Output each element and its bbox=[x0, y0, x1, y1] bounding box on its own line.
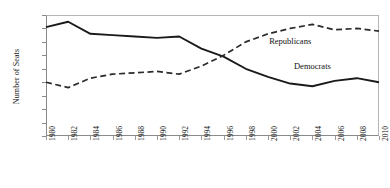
x-tick-label: 1998 bbox=[249, 126, 257, 141]
x-tick-label: 1982 bbox=[71, 126, 79, 141]
x-tick-mark bbox=[46, 136, 47, 140]
x-tick-label: 1992 bbox=[182, 126, 190, 141]
x-tick-label: 1988 bbox=[138, 126, 146, 141]
x-tick-label: 2000 bbox=[271, 126, 279, 141]
y-tick-mark bbox=[42, 82, 46, 83]
x-tick-mark bbox=[379, 136, 380, 140]
y-tick-mark bbox=[42, 15, 46, 16]
x-tick-label: 1986 bbox=[116, 126, 124, 141]
chart-root: Number of Seats 010203040506070809019801… bbox=[0, 0, 390, 188]
plot-area bbox=[46, 15, 379, 136]
x-tick-label: 1990 bbox=[160, 126, 168, 141]
x-tick-label: 2004 bbox=[315, 126, 323, 141]
series-canvas bbox=[46, 15, 379, 136]
x-tick-mark bbox=[357, 136, 358, 140]
x-tick-label: 1984 bbox=[93, 126, 101, 141]
y-tick-mark bbox=[42, 123, 46, 124]
x-tick-label: 1996 bbox=[227, 126, 235, 141]
x-tick-label: 2008 bbox=[360, 126, 368, 141]
x-tick-label: 1980 bbox=[49, 126, 57, 141]
y-tick-mark bbox=[42, 28, 46, 29]
x-tick-mark bbox=[335, 136, 336, 140]
x-tick-label: 1994 bbox=[204, 126, 212, 141]
x-tick-mark bbox=[268, 136, 269, 140]
series-label-republicans: Republicans bbox=[269, 36, 311, 46]
x-tick-mark bbox=[113, 136, 114, 140]
x-tick-label: 2002 bbox=[293, 126, 301, 141]
y-tick-mark bbox=[42, 69, 46, 70]
x-tick-mark bbox=[135, 136, 136, 140]
y-tick-mark bbox=[42, 96, 46, 97]
x-tick-mark bbox=[157, 136, 158, 140]
line-chart-svg bbox=[46, 15, 379, 136]
x-tick-mark bbox=[246, 136, 247, 140]
series-label-democrats: Democrats bbox=[294, 61, 331, 71]
y-axis-title: Number of Seats bbox=[12, 17, 21, 137]
x-tick-label: 2010 bbox=[382, 126, 390, 141]
x-tick-label: 2006 bbox=[338, 126, 346, 141]
y-tick-mark bbox=[42, 42, 46, 43]
y-tick-mark bbox=[42, 109, 46, 110]
x-tick-mark bbox=[224, 136, 225, 140]
y-tick-mark bbox=[42, 55, 46, 56]
